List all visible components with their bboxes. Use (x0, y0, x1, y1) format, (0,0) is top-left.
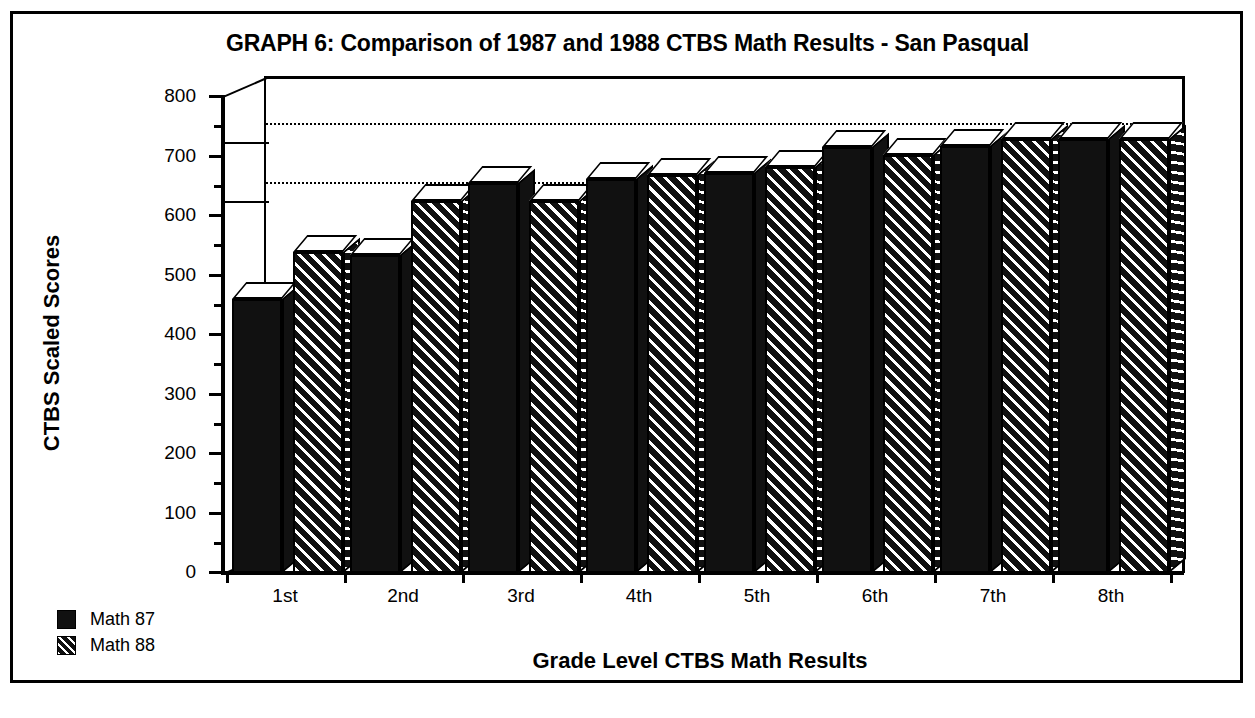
y-tick-label-100: 100 (164, 502, 196, 524)
bar-math88-3rd (529, 0, 579, 573)
y-tick-minor-150 (214, 482, 225, 485)
x-axis-label-8th: 8th (1071, 585, 1151, 607)
y-tick-minor-750 (214, 125, 225, 128)
legend-swatch-icon-math-87 (57, 610, 76, 629)
bar-math87-3rd (468, 0, 518, 573)
y-tick-0 (209, 571, 225, 574)
legend-label-math-87: Math 87 (90, 609, 155, 630)
bar-math88-1st (293, 0, 343, 573)
legend-label-math-88: Math 88 (90, 635, 155, 656)
legend-item-math-88: Math 88 (57, 632, 155, 658)
y-axis-title: CTBS Scaled Scores (39, 163, 65, 523)
bar-math87-2nd (350, 0, 400, 573)
y-tick-label-200: 200 (164, 442, 196, 464)
legend: Math 87 Math 88 (57, 606, 155, 658)
x-tick-4 (698, 571, 701, 583)
y-tick-600 (209, 214, 225, 217)
bar-math87-6th (822, 0, 872, 573)
x-axis-label-7th: 7th (953, 585, 1033, 607)
x-axis-label-6th: 6th (835, 585, 915, 607)
bar-math88-5th (765, 0, 815, 573)
bar-math88-2nd (411, 0, 461, 573)
x-tick-0 (226, 571, 229, 583)
x-axis-label-2nd: 2nd (363, 585, 443, 607)
bar-math87-1st (232, 0, 282, 573)
x-tick-3 (580, 571, 583, 583)
y-tick-200 (209, 452, 225, 455)
y-tick-label-300: 300 (164, 383, 196, 405)
y-tick-label-400: 400 (164, 323, 196, 345)
bar-math88-8th (1119, 0, 1169, 573)
legend-item-math-87: Math 87 (57, 606, 155, 632)
x-tick-5 (816, 571, 819, 583)
y-tick-500 (209, 274, 225, 277)
bar-math87-7th (940, 0, 990, 573)
x-tick-8 (1170, 571, 1173, 583)
y-tick-label-0: 0 (185, 561, 196, 583)
legend-swatch-icon-math-88 (57, 636, 76, 655)
y-tick-label-700: 700 (164, 145, 196, 167)
plot-area: 800 700 600 500 400 300 200 100 0 (0, 0, 1255, 718)
bar-math87-5th (704, 0, 754, 573)
x-tick-7 (1052, 571, 1055, 583)
y-tick-minor-350 (214, 363, 225, 366)
x-tick-6 (934, 571, 937, 583)
y-tick-700 (209, 155, 225, 158)
x-axis-label-4th: 4th (599, 585, 679, 607)
chart-page: GRAPH 6: Comparison of 1987 and 1988 CTB… (0, 0, 1255, 718)
y-tick-minor-650 (214, 185, 225, 188)
y-tick-label-800: 800 (164, 85, 196, 107)
x-axis-label-3rd: 3rd (481, 585, 561, 607)
x-axis-label-5th: 5th (717, 585, 797, 607)
y-tick-minor-250 (214, 423, 225, 426)
x-tick-2 (462, 571, 465, 583)
y-tick-minor-550 (214, 244, 225, 247)
y-tick-800 (209, 95, 225, 98)
y-tick-minor-450 (214, 304, 225, 307)
y-tick-minor-50 (214, 542, 225, 545)
x-axis-title: Grade Level CTBS Math Results (250, 648, 1150, 674)
y-tick-100 (209, 512, 225, 515)
x-tick-1 (344, 571, 347, 583)
bar-math87-4th (586, 0, 636, 573)
y-tick-300 (209, 393, 225, 396)
bar-math88-7th (1001, 0, 1051, 573)
y-tick-label-500: 500 (164, 264, 196, 286)
y-tick-400 (209, 333, 225, 336)
x-axis-label-1st: 1st (245, 585, 325, 607)
bar-math88-4th (647, 0, 697, 573)
bar-math88-6th (883, 0, 933, 573)
bar-math87-8th (1058, 0, 1108, 573)
y-tick-label-600: 600 (164, 204, 196, 226)
